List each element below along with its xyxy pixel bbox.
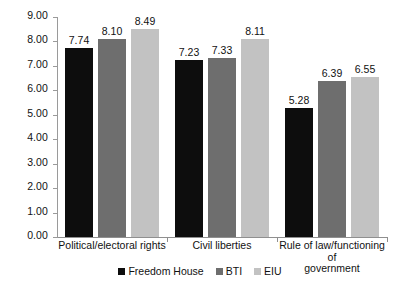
y-axis-tick-label: 0.00 bbox=[27, 230, 48, 241]
bar-group: 7.748.108.49 bbox=[57, 14, 167, 237]
legend-item[interactable]: EIU bbox=[254, 266, 282, 277]
legend-label: BTI bbox=[226, 266, 242, 277]
legend-swatch-icon bbox=[216, 268, 223, 275]
bar-value-label: 7.33 bbox=[212, 45, 232, 56]
bar[interactable]: 6.55 bbox=[351, 14, 379, 237]
bar-rect bbox=[318, 81, 346, 237]
bar-rect bbox=[65, 48, 93, 237]
y-axis-tick-label: 8.00 bbox=[27, 34, 48, 45]
bar-value-label: 7.74 bbox=[69, 35, 89, 46]
bar-chart: 0.001.002.003.004.005.006.007.008.009.00… bbox=[0, 0, 400, 289]
bar-rect bbox=[285, 108, 313, 237]
y-axis-tick-label: 6.00 bbox=[27, 83, 48, 94]
legend-item[interactable]: BTI bbox=[216, 266, 242, 277]
x-axis-separator-tick bbox=[387, 237, 388, 242]
bar-value-label: 7.23 bbox=[179, 47, 199, 58]
legend-label: Freedom House bbox=[128, 266, 203, 277]
bar[interactable]: 7.23 bbox=[175, 14, 203, 237]
y-axis-tick-label: 9.00 bbox=[27, 10, 48, 21]
legend-label: EIU bbox=[264, 266, 282, 277]
bar[interactable]: 5.28 bbox=[285, 14, 313, 237]
bar-rect bbox=[241, 39, 269, 237]
x-axis-category-label: Political/electoral rights bbox=[57, 240, 167, 252]
bar-rect bbox=[208, 58, 236, 237]
y-axis-tick-label: 3.00 bbox=[27, 157, 48, 168]
legend-swatch-icon bbox=[254, 268, 261, 275]
plot-area: 7.748.108.497.237.338.115.286.396.55 bbox=[57, 14, 387, 237]
bar-rect bbox=[175, 60, 203, 237]
bar-value-label: 8.49 bbox=[135, 16, 155, 27]
bar-rect bbox=[98, 39, 126, 237]
y-axis-tick-label: 2.00 bbox=[27, 181, 48, 192]
bar-value-label: 6.55 bbox=[355, 64, 375, 75]
y-axis-tick-label: 5.00 bbox=[27, 108, 48, 119]
bar-value-label: 8.11 bbox=[245, 26, 265, 37]
x-axis-line bbox=[57, 237, 387, 238]
x-axis-category-label: Civil liberties bbox=[167, 240, 277, 252]
chart-legend: Freedom HouseBTIEIU bbox=[0, 266, 400, 277]
bar[interactable]: 8.11 bbox=[241, 14, 269, 237]
bar-group: 7.237.338.11 bbox=[167, 14, 277, 237]
bar-value-label: 5.28 bbox=[289, 95, 309, 106]
bar-value-label: 6.39 bbox=[322, 68, 342, 79]
y-axis-tick-label: 4.00 bbox=[27, 132, 48, 143]
bar-value-label: 8.10 bbox=[102, 26, 122, 37]
bar-group: 5.286.396.55 bbox=[277, 14, 387, 237]
bar[interactable]: 7.33 bbox=[208, 14, 236, 237]
bar-rect bbox=[131, 29, 159, 237]
bar-rect bbox=[351, 77, 379, 237]
y-axis-tick-label: 1.00 bbox=[27, 206, 48, 217]
bar[interactable]: 8.49 bbox=[131, 14, 159, 237]
bar[interactable]: 7.74 bbox=[65, 14, 93, 237]
legend-item[interactable]: Freedom House bbox=[118, 266, 203, 277]
bar[interactable]: 6.39 bbox=[318, 14, 346, 237]
y-axis-tick-label: 7.00 bbox=[27, 59, 48, 70]
bar[interactable]: 8.10 bbox=[98, 14, 126, 237]
legend-swatch-icon bbox=[118, 268, 125, 275]
y-axis-tick-mark bbox=[53, 237, 58, 238]
